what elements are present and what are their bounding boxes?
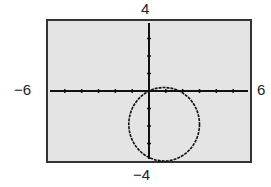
plot-area	[0, 0, 271, 187]
circle-curve	[129, 88, 200, 162]
